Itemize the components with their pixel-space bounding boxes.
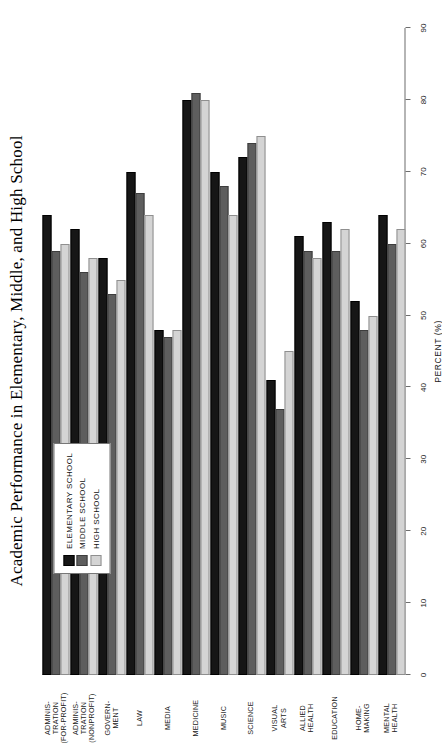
bar [294,236,303,675]
chart-title: Academic Performance in Elementary, Midd… [6,0,26,722]
legend-swatch [63,555,74,566]
plot-area: 0102030405060708090 [42,28,405,675]
bar [359,330,368,675]
category-label: VISUAL ARTS [271,681,287,747]
category-label: ADMINIS- TRATION (FOR-PROFIT) [44,681,69,747]
bar [238,157,247,675]
tick-mark [405,315,410,316]
bar [322,222,331,675]
legend-swatch [76,555,87,566]
category-label: MUSIC [219,681,227,747]
bar [172,330,181,675]
bar-group [237,28,265,675]
bar [135,193,144,675]
legend-item: HIGH SCHOOL [90,453,101,566]
legend-label: HIGH SCHOOL [91,489,100,549]
legend-item: ELEMENTARY SCHOOL [63,453,74,566]
tick-label: 70 [418,167,427,176]
category-label: HOME- MAKING [355,681,371,747]
bar [396,229,405,675]
bar [275,409,284,675]
bar [144,215,153,675]
tick-label: 0 [418,673,427,677]
tick-mark [405,602,410,603]
chart-legend: ELEMENTARY SCHOOLMIDDLE SCHOOLHIGH SCHOO… [53,443,110,574]
bar-group [70,28,98,675]
tick-label: 10 [418,599,427,608]
bar-group [321,28,349,675]
tick-label: 50 [418,311,427,320]
bar-group [293,28,321,675]
bar [182,100,191,675]
bar [340,229,349,675]
bar [116,280,125,675]
category-label: EDUCATION [331,681,339,747]
bar-group [154,28,182,675]
bar [368,316,377,675]
bar [200,100,209,675]
bar [247,143,256,675]
tick-mark [405,458,410,459]
bar-group [377,28,405,675]
bar [42,215,51,675]
bar [284,352,293,676]
category-label: ADMINIS- TRATION (NONPROFIT) [72,681,97,747]
bar [126,172,135,675]
bar-group [42,28,70,675]
bar-group [182,28,210,675]
legend-label: ELEMENTARY SCHOOL [64,453,73,549]
category-label: ALLIED HEALTH [299,681,315,747]
bar [219,186,228,675]
bar [350,301,359,675]
bar [331,251,340,675]
tick-label: 40 [418,383,427,392]
category-label: LAW [136,681,144,747]
tick-label: 80 [418,95,427,104]
bar [387,244,396,675]
tick-mark [405,171,410,172]
bar [191,93,200,675]
bar [256,136,265,675]
tick-mark [405,99,410,100]
category-label: MENTAL HEALTH [383,681,399,747]
category-label: MEDICINE [191,681,199,747]
category-label: GOVERN- MENT [104,681,120,747]
bar [378,215,387,675]
tick-mark [405,27,410,28]
value-axis-title: PERCENT (%) [432,28,442,675]
tick-mark [405,530,410,531]
bar-group [265,28,293,675]
bar-group [126,28,154,675]
legend-swatch [90,555,101,566]
bar-group [349,28,377,675]
tick-label: 90 [418,24,427,33]
bar [312,258,321,675]
tick-label: 20 [418,527,427,536]
bar [154,330,163,675]
tick-label: 60 [418,239,427,248]
bar [210,172,219,675]
bar [303,251,312,675]
bar [266,380,275,675]
bar-group [98,28,126,675]
bar [228,215,237,675]
category-label: MEDIA [164,681,172,747]
legend-label: MIDDLE SCHOOL [77,478,86,549]
tick-mark [405,674,410,675]
tick-label: 30 [418,455,427,464]
tick-mark [405,386,410,387]
category-label: SCIENCE [247,681,255,747]
tick-mark [405,243,410,244]
bar [163,337,172,675]
bar-group [210,28,238,675]
legend-item: MIDDLE SCHOOL [76,453,87,566]
